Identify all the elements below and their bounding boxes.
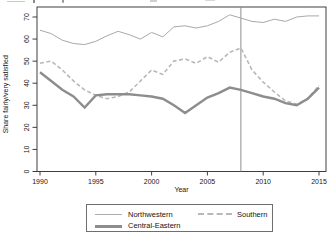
y-tick-label: 20 <box>23 123 30 131</box>
series-northwestern <box>40 15 319 45</box>
legend-line-central-eastern <box>95 225 122 228</box>
x-tick-label: 1990 <box>32 178 48 185</box>
chart-legend: Northwestern Southern Central-Eastern <box>86 204 273 232</box>
y-tick-label: 70 <box>23 13 30 21</box>
x-tick-label: 2000 <box>144 178 160 185</box>
y-tick-label: 0 <box>23 169 30 173</box>
legend-label-southern: Southern <box>237 210 267 219</box>
legend-label-northwestern: Northwestern <box>128 210 173 219</box>
x-tick-label: 2015 <box>311 178 327 185</box>
y-axis-title: Share fairly/very satisfied <box>2 55 10 133</box>
x-tick-label: 2010 <box>255 178 271 185</box>
x-tick-label: 2005 <box>200 178 216 185</box>
y-tick-label: 30 <box>23 101 30 109</box>
legend-line-northwestern <box>95 214 122 215</box>
y-tick-label: 40 <box>23 79 30 87</box>
series-central-eastern <box>40 72 319 113</box>
series-southern <box>40 48 319 104</box>
y-tick-label: 10 <box>23 145 30 153</box>
figure-root: 010203040506070199019952000200520102015S… <box>0 0 334 241</box>
plot-frame <box>37 7 326 172</box>
y-tick-label: 60 <box>23 35 30 43</box>
x-tick-label: 1995 <box>88 178 104 185</box>
y-tick-label: 50 <box>23 57 30 65</box>
line-chart: 010203040506070199019952000200520102015S… <box>0 0 334 198</box>
x-axis-title: Year <box>174 186 189 193</box>
legend-line-southern <box>198 213 232 215</box>
legend-label-central-eastern: Central-Eastern <box>128 221 181 230</box>
